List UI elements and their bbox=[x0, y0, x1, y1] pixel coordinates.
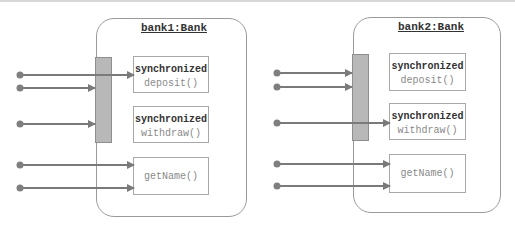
thread-arrows-overlay bbox=[0, 0, 515, 227]
